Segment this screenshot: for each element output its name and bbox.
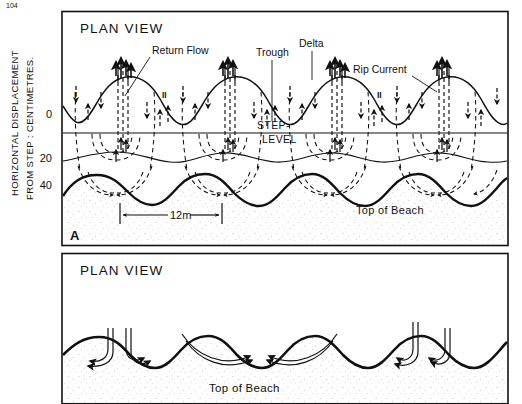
marker-label-ii-left: II (162, 90, 167, 100)
label-delta: Delta (299, 37, 324, 49)
scale-bar-label: 12m (170, 209, 191, 221)
y-tick-label-40: 40 (40, 179, 52, 191)
figure-root: 104 HORIZONTAL DISPLACEMENT FROM STEP : … (0, 0, 522, 404)
marker-label-i: I (74, 90, 76, 100)
marker-label-ii-right: II (377, 90, 382, 100)
panel-a-letter: A (70, 228, 80, 243)
label-rip-current: Rip Current (353, 63, 407, 75)
panel-b: PLAN VIEW Top of Beach (62, 254, 508, 404)
label-trough: Trough (256, 46, 289, 58)
y-axis-title-line1: HORIZONTAL DISPLACEMENT (9, 50, 20, 196)
y-tick-label-0: 0 (46, 108, 52, 120)
label-step-level-line2: LEVEL (262, 133, 297, 145)
panel-a: PLAN VIEW (62, 12, 508, 246)
panel-a-view-title: PLAN VIEW (80, 21, 163, 36)
label-top-of-beach-a: Top of Beach (356, 204, 424, 216)
label-top-of-beach-b: Top of Beach (209, 382, 280, 394)
label-step-level-line1: STEP- (257, 119, 290, 131)
y-tick-label-20: 20 (40, 152, 52, 164)
y-axis: HORIZONTAL DISPLACEMENT FROM STEP : CENT… (9, 50, 52, 200)
panel-b-view-title: PLAN VIEW (80, 263, 163, 278)
y-axis-title-line2: FROM STEP : CENTIMETRES. (24, 57, 35, 201)
page-number: 104 (6, 2, 18, 9)
label-return-flow: Return Flow (152, 44, 209, 56)
